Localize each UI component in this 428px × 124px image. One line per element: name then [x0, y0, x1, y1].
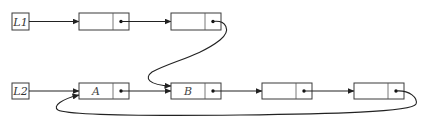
node-value: B [183, 85, 192, 98]
head-pointer-l1: L1 [12, 13, 29, 30]
node-value: A [91, 85, 100, 98]
head-pointer-l2: L2 [12, 83, 29, 99]
head-label-l2: L2 [12, 85, 27, 98]
linked-list-diagram: L1 L2 A B [0, 0, 428, 124]
head-label-l1: L1 [12, 16, 27, 29]
curved-arrow-l1-to-b [148, 21, 226, 86]
